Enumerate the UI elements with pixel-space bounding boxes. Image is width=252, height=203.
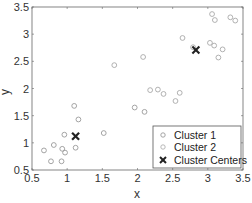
y-tick-label: 2 <box>23 83 29 95</box>
y-tick-label: 3 <box>23 28 29 40</box>
legend-cluster-2-label: Cluster 2 <box>174 141 216 153</box>
y-tick-label: 2.5 <box>14 55 29 67</box>
x-axis-label: x <box>134 187 140 201</box>
scatter-chart: 0.511.522.533.50.511.522.533.5 x y Clust… <box>0 0 252 203</box>
x-tick-label: 1 <box>64 172 70 184</box>
y-tick-label: 1.5 <box>14 110 29 122</box>
x-tick-label: 2 <box>134 172 140 184</box>
x-tick-label: 1.5 <box>95 172 110 184</box>
legend: Cluster 1 Cluster 2 Cluster Centers <box>153 126 247 168</box>
x-tick-label: 3.5 <box>235 172 250 184</box>
y-tick-label: 3.5 <box>14 1 29 13</box>
x-tick-label: 2.5 <box>165 172 180 184</box>
legend-cluster-centers-label: Cluster Centers <box>174 154 247 166</box>
y-tick-label: 1 <box>23 137 29 149</box>
y-tick-label: 0.5 <box>14 164 29 176</box>
legend-cluster-1-label: Cluster 1 <box>174 129 216 141</box>
x-tick-label: 3 <box>205 172 211 184</box>
y-axis-label: y <box>0 89 12 95</box>
